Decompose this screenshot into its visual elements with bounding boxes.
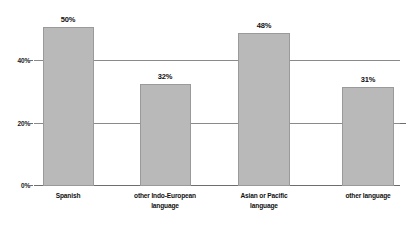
y-axis: 40% 20% 0%	[0, 14, 30, 186]
y-tick-mark-20	[27, 123, 33, 124]
x-tick-label-other-indo-european: other Indo-European language	[134, 191, 196, 211]
bar-other-indo-european[interactable]	[140, 84, 191, 186]
x-tick-label-spanish: Spanish	[56, 191, 81, 201]
y-tick-mark-right-20	[400, 123, 406, 124]
x-tick-label-line2: language	[240, 201, 287, 211]
bar-value-asian-or-pacific: 48%	[257, 21, 271, 30]
bar-spanish[interactable]	[43, 27, 94, 186]
x-tick-label-other-language: other language	[345, 191, 390, 201]
y-tick-mark-40	[27, 60, 33, 61]
bar-value-other-indo-european: 32%	[158, 72, 172, 81]
bar-asian-or-pacific[interactable]	[238, 33, 290, 186]
bar-value-other-language: 31%	[361, 75, 375, 84]
y-tick-mark-0	[27, 185, 33, 186]
x-tick-label-line1: Spanish	[56, 192, 81, 199]
x-tick-label-asian-or-pacific: Asian or Pacific language	[240, 191, 287, 211]
x-tick-label-line2: language	[134, 201, 196, 211]
x-tick-label-line1: other Indo-European	[134, 192, 196, 199]
bar-chart: 40% 20% 0% 50% 32% 48% 31% Spanish other…	[0, 0, 418, 225]
bar-other-language[interactable]	[342, 87, 394, 186]
x-tick-label-line1: Asian or Pacific	[240, 192, 287, 199]
plot-area: 50% 32% 48% 31%	[34, 14, 400, 186]
bar-value-spanish: 50%	[61, 15, 75, 24]
x-tick-label-line1: other language	[345, 192, 390, 199]
